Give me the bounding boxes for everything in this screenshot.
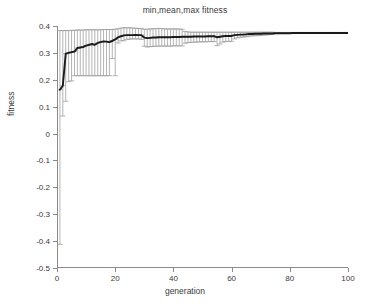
y-tick-label: 0 [46,129,50,138]
errorbar [69,30,74,81]
errorbar [57,31,62,245]
errorbar [75,30,80,76]
errorbar [104,30,109,76]
errorbar [136,28,141,38]
x-tick-label: 60 [227,274,236,283]
errorbar [214,32,219,45]
y-tick-mark [53,80,57,81]
errorbar [133,28,138,39]
errorbar [89,30,94,76]
errorbar [98,30,103,76]
errorbar [124,28,129,40]
errorbar [113,29,118,76]
y-tick-mark [53,160,57,161]
y-tick-mark [53,134,57,135]
chart-title: min,mean,max fitness [0,5,370,15]
x-axis-title: generation [0,286,370,296]
x-tick-label: 20 [111,274,120,283]
y-tick-mark [53,107,57,108]
x-tick-mark [348,268,349,272]
errorbar [66,31,71,82]
y-tick-label: 0.3 [39,48,50,57]
errorbar [127,28,132,40]
y-tick-label: -0.5 [36,264,50,273]
errorbar [101,30,106,76]
figure-canvas: min,mean,max fitness -0.5-0.4-0.3-0.2-0.… [0,0,370,305]
x-tick-label: 100 [341,274,354,283]
errorbar-group [57,28,348,245]
y-tick-mark [53,53,57,54]
y-tick-label: 0.1 [39,102,50,111]
x-tick-label: 0 [55,274,59,283]
y-tick-mark [53,187,57,188]
y-tick-label: -0.4 [36,237,50,246]
errorbar [110,30,115,59]
y-tick-mark [53,26,57,27]
x-tick-mark [115,268,116,272]
y-tick-label: 0.2 [39,75,50,84]
errorbar [130,28,135,39]
x-tick-mark [173,268,174,272]
x-tick-mark [57,268,58,272]
errorbar [78,30,83,76]
x-tick-mark [232,268,233,272]
y-tick-mark [53,214,57,215]
errorbar [121,28,126,41]
plot-area: -0.5-0.4-0.3-0.2-0.100.10.20.30.4 020406… [57,26,348,268]
x-tick-label: 40 [169,274,178,283]
y-tick-label: -0.1 [36,156,50,165]
errorbar [118,28,123,41]
y-tick-mark [53,241,57,242]
errorbar [72,30,77,75]
chart-data-svg [57,26,348,268]
x-tick-label: 80 [285,274,294,283]
y-tick-label: 0.4 [39,22,50,31]
y-axis-title: fitness [6,91,16,116]
errorbar [81,30,86,76]
errorbar [107,30,112,76]
errorbar [95,30,100,76]
errorbar [92,30,97,76]
y-tick-label: -0.2 [36,183,50,192]
y-tick-label: -0.3 [36,210,50,219]
x-tick-mark [290,268,291,272]
errorbar [84,30,89,76]
errorbar [86,30,91,76]
